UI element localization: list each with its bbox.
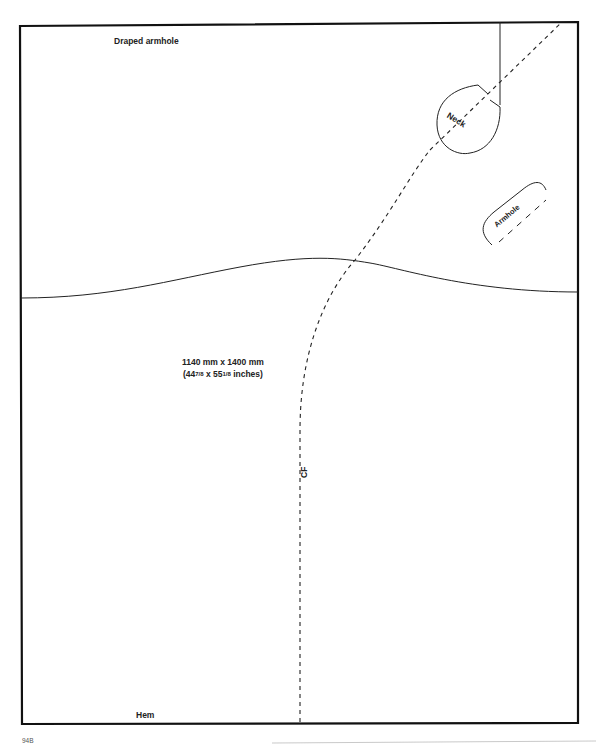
- dimensions-imperial: (447/8 x 551/8 inches): [182, 368, 264, 380]
- dimensions-label: 1140 mm x 1400 mm (447/8 x 551/8 inches): [182, 356, 264, 380]
- drape-wave-line: [21, 258, 578, 298]
- imperial-prefix: (44: [183, 369, 195, 379]
- pattern-page: Draped armhole 1140 mm x 1400 mm (447/8 …: [0, 0, 596, 751]
- imperial-fraction-1: 7/8: [195, 371, 203, 377]
- center-front-dashed-line: [300, 150, 430, 722]
- neck-notch-left: [478, 85, 488, 94]
- fabric-border: [20, 22, 578, 724]
- page-number: 94B: [22, 738, 34, 745]
- center-front-label: CF: [300, 467, 309, 478]
- imperial-fraction-2: 1/8: [222, 371, 230, 377]
- diagram-title: Draped armhole: [114, 37, 179, 46]
- imperial-mid: x 55: [204, 369, 223, 379]
- neck-notch-right: [490, 100, 500, 107]
- footer-rule: [272, 741, 596, 743]
- hem-label: Hem: [136, 711, 154, 720]
- dimensions-metric: 1140 mm x 1400 mm: [182, 356, 264, 368]
- imperial-suffix: inches): [231, 369, 263, 379]
- pattern-drawing: [0, 0, 596, 751]
